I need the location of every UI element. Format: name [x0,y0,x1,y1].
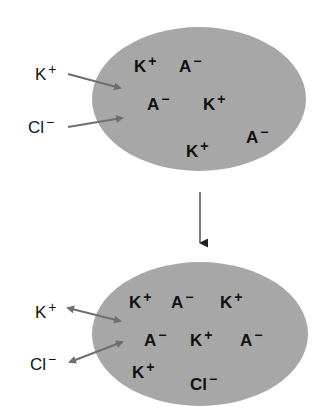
ion-symbol: A [144,331,156,350]
ion-symbol: K [220,293,233,312]
ion-charge: + [217,91,225,107]
ion-symbol: K [35,303,47,322]
ion-charge: − [158,327,166,343]
ion-charge: + [146,359,154,375]
ion-charge: + [48,61,56,77]
ion-charge: + [200,138,208,154]
ion-symbol: A [147,95,159,114]
ion-charge: + [148,53,156,69]
ion-distribution-diagram: K+Cl−K+A−A−K+A−K+ K+Cl−K+A−K+A−K+A−K+Cl− [0,0,329,418]
ion-charge: − [46,114,54,130]
ion-charge: + [204,327,212,343]
ion-symbol: K [190,331,203,350]
ion-charge: − [209,371,217,387]
cell-membrane [92,27,306,171]
ion-charge: + [234,289,242,305]
extracellular-ion-k: K+ [35,61,57,84]
ion-charge: − [161,91,169,107]
ion-charge: − [260,124,268,140]
ion-charge: + [48,299,56,315]
bottom-cell: K+Cl−K+A−K+A−K+A−K+Cl− [30,262,308,406]
ion-symbol: A [179,57,191,76]
ion-charge: − [193,53,201,69]
ion-symbol: Cl [28,118,44,137]
ion-charge: − [254,327,262,343]
top-cell: K+Cl−K+A−A−K+A−K+ [28,27,306,171]
ion-symbol: K [186,142,199,161]
ion-symbol: K [35,65,47,84]
ion-symbol: K [203,95,216,114]
ion-symbol: Cl [30,355,46,374]
extracellular-ion-cl: Cl− [30,351,56,374]
ion-symbol: A [246,128,258,147]
extracellular-ion-cl: Cl− [28,114,54,137]
ion-charge: + [143,289,151,305]
ion-symbol: Cl [190,375,207,394]
ion-charge: − [48,351,56,367]
ion-symbol: K [132,363,145,382]
extracellular-ion-k: K+ [35,299,57,322]
ion-symbol: K [134,57,147,76]
ion-symbol: A [240,331,252,350]
ion-symbol: A [171,293,183,312]
ion-symbol: K [129,293,142,312]
ion-charge: − [185,289,193,305]
